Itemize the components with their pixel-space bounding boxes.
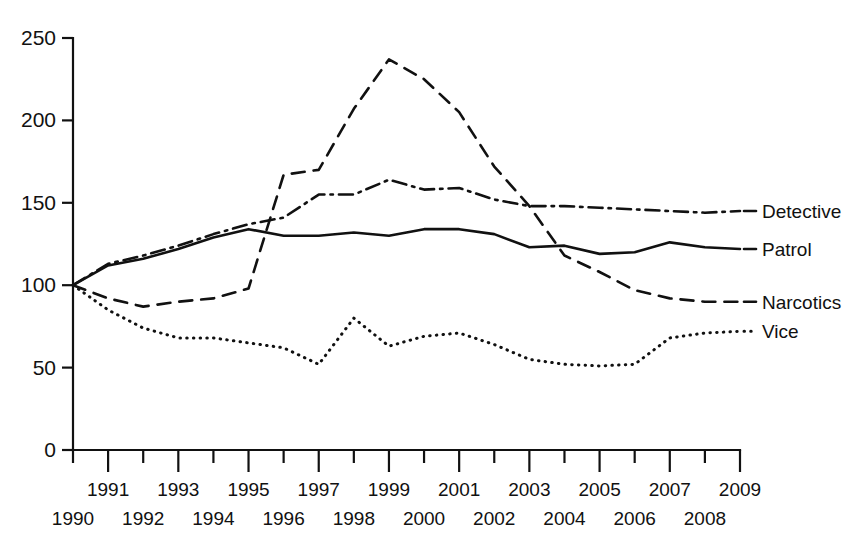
x-tick-label: 2001	[438, 479, 480, 500]
x-tick-label: 1998	[333, 508, 375, 529]
series-line-narcotics	[73, 59, 740, 306]
x-tick-label: 1999	[368, 479, 410, 500]
series-line-vice	[73, 285, 740, 366]
legend-label-patrol[interactable]: Patrol	[762, 239, 812, 260]
legend-label-vice[interactable]: Vice	[762, 321, 799, 342]
y-tick-label: 100	[21, 273, 56, 296]
x-tick-label: 2002	[473, 508, 515, 529]
legend-label-detective[interactable]: Detective	[762, 201, 841, 222]
y-tick-label: 50	[33, 356, 56, 379]
x-tick-label: 1993	[157, 479, 199, 500]
y-axis: 050100150200250	[21, 26, 73, 461]
x-tick-label: 2009	[719, 479, 761, 500]
series-layer	[73, 59, 740, 366]
legend-label-narcotics[interactable]: Narcotics	[762, 292, 841, 313]
chart-canvas: 050100150200250 199019911992199319941995…	[0, 0, 862, 537]
line-chart: 050100150200250 199019911992199319941995…	[0, 0, 862, 537]
x-tick-label: 1991	[87, 479, 129, 500]
series-line-patrol	[73, 229, 740, 285]
x-tick-label: 2003	[508, 479, 550, 500]
chart-legend: DetectivePatrolNarcoticsVice	[744, 201, 841, 342]
y-tick-label: 250	[21, 26, 56, 49]
x-tick-label: 2007	[649, 479, 691, 500]
x-tick-label: 2004	[543, 508, 586, 529]
y-tick-label: 150	[21, 191, 56, 214]
x-tick-label: 2000	[403, 508, 445, 529]
x-tick-label: 1996	[262, 508, 304, 529]
x-tick-label: 1995	[227, 479, 269, 500]
x-tick-label: 1992	[122, 508, 164, 529]
x-tick-label: 2006	[614, 508, 656, 529]
x-tick-label: 1994	[192, 508, 235, 529]
x-axis: 1990199119921993199419951996199719981999…	[52, 450, 761, 529]
x-tick-label: 1990	[52, 508, 94, 529]
x-tick-label: 2005	[578, 479, 620, 500]
y-tick-label: 0	[44, 438, 56, 461]
y-tick-label: 200	[21, 108, 56, 131]
x-tick-label: 1997	[298, 479, 340, 500]
x-tick-label: 2008	[684, 508, 726, 529]
